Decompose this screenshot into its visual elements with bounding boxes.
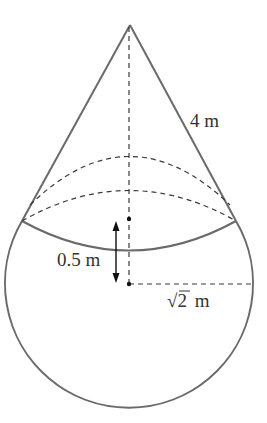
slant-height-label: 4 m xyxy=(190,110,219,131)
sphere-outline xyxy=(5,221,253,408)
sphere-radius-label: √2 m xyxy=(167,290,210,311)
sqrt-two-text: √2 xyxy=(167,290,187,311)
cone-sphere-diagram: 4 m 0.5 m √2 m xyxy=(0,0,267,423)
chord-center-point xyxy=(127,217,131,221)
radius-unit-text: m xyxy=(190,290,210,311)
sphere-hidden-top-arc xyxy=(30,157,230,206)
offset-distance-label: 0.5 m xyxy=(57,249,101,270)
sphere-center-point xyxy=(127,282,131,286)
cone-left-side xyxy=(22,25,130,221)
double-arrow-icon xyxy=(113,221,120,283)
